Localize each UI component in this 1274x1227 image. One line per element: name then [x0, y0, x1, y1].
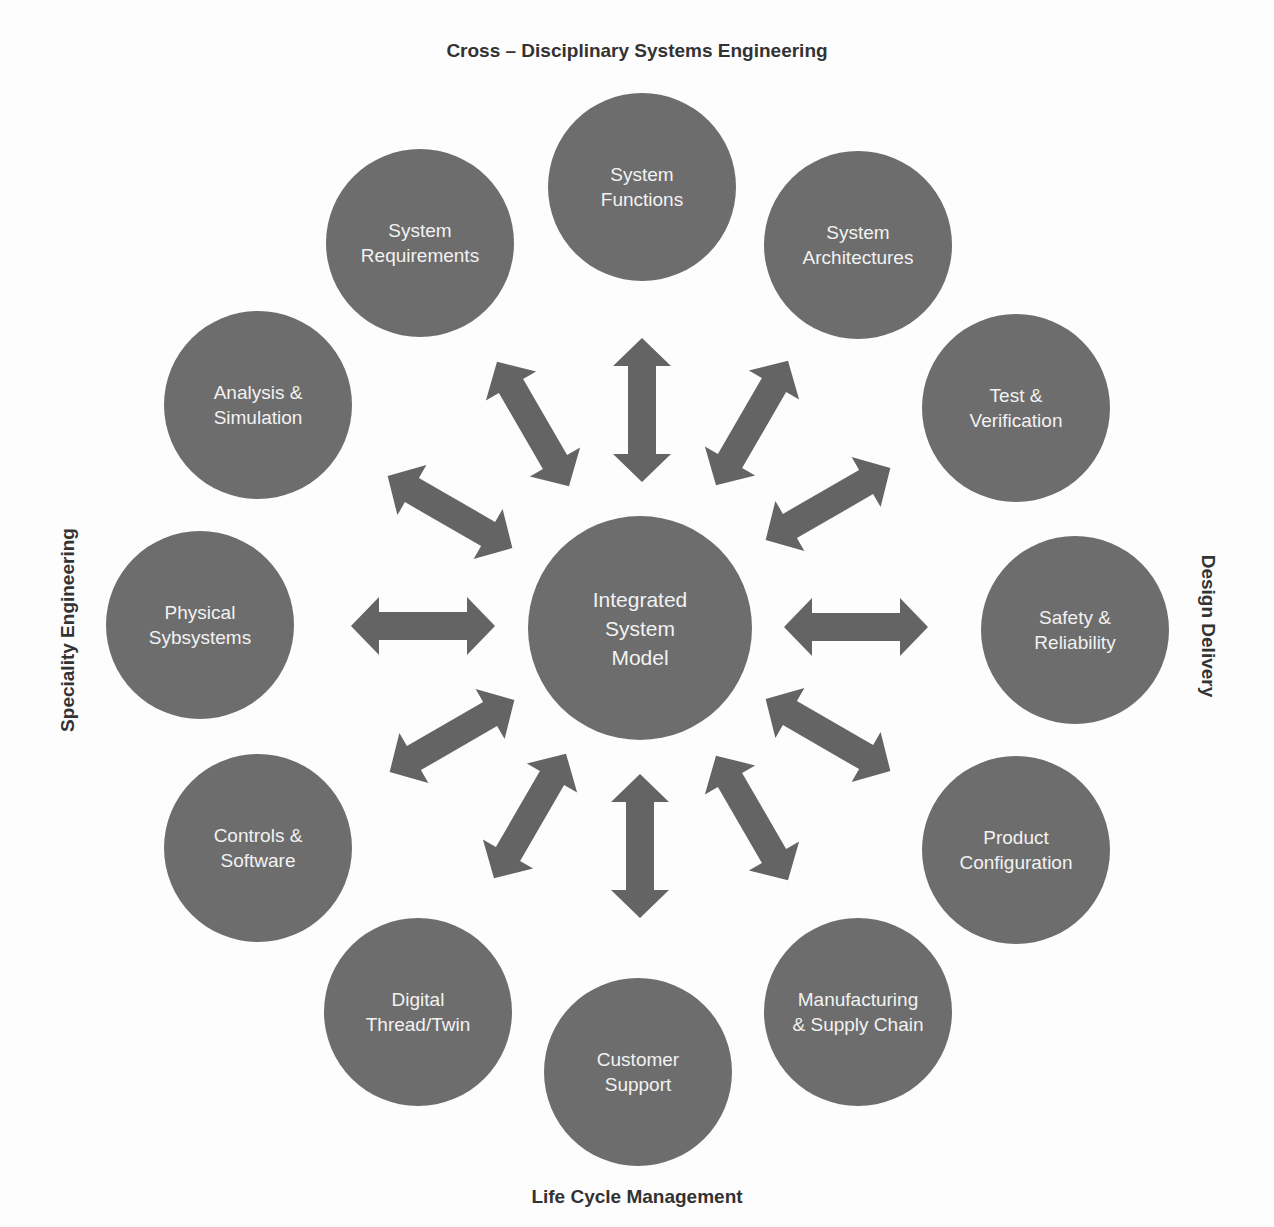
axis-label-left: Speciality Engineering [57, 528, 79, 732]
node-label-line: System [593, 614, 688, 643]
node-label-line: Thread/Twin [366, 1012, 471, 1037]
arrow-safety-reliability [784, 598, 928, 656]
node-label-line: Sybsystems [149, 625, 251, 650]
node-manufacturing-supply-chain: Manufacturing & Supply Chain [764, 918, 952, 1106]
node-label-line: Software [214, 848, 303, 873]
node-controls-software: Controls & Software [164, 754, 352, 942]
arrow-customer-support [611, 774, 669, 918]
node-system-requirements: System Requirements [326, 149, 514, 337]
node-product-configuration: Product Configuration [922, 756, 1110, 944]
arrow-system-architectures [691, 346, 813, 500]
node-label-line: Physical [149, 600, 251, 625]
node-label-line: Support [597, 1072, 679, 1097]
node-system-functions: System Functions [548, 93, 736, 281]
node-label-line: System [361, 218, 479, 243]
node-label-line: System [803, 220, 914, 245]
node-label-line: Test & [970, 383, 1063, 408]
node-label-line: Verification [970, 408, 1063, 433]
node-label-line: Integrated [593, 585, 688, 614]
arrow-controls-software [375, 675, 529, 797]
node-label-line: Reliability [1034, 630, 1115, 655]
node-system-architectures: System Architectures [764, 151, 952, 339]
arrow-system-functions [613, 338, 671, 482]
axis-label-top: Cross – Disciplinary Systems Engineering [0, 40, 1274, 62]
node-label-line: Configuration [959, 850, 1072, 875]
arrow-physical-sybsystems [351, 597, 495, 655]
center-node-integrated-system-model: Integrated System Model [528, 516, 752, 740]
node-label-line: Functions [601, 187, 683, 212]
axis-label-bottom: Life Cycle Management [0, 1186, 1274, 1208]
node-label-line: Customer [597, 1047, 679, 1072]
arrow-analysis-simulation [373, 451, 527, 573]
node-label-line: Simulation [214, 405, 303, 430]
node-customer-support: Customer Support [544, 978, 732, 1166]
arrow-manufacturing-supply-chain [691, 741, 813, 895]
node-label-line: Digital [366, 987, 471, 1012]
node-label-line: Architectures [803, 245, 914, 270]
node-analysis-simulation: Analysis & Simulation [164, 311, 352, 499]
diagram-canvas: Cross – Disciplinary Systems Engineering… [0, 0, 1274, 1227]
node-label-line: Requirements [361, 243, 479, 268]
arrow-digital-thread-twin [469, 739, 591, 893]
node-label-line: Controls & [214, 823, 303, 848]
node-physical-sybsystems: Physical Sybsystems [106, 531, 294, 719]
arrow-system-requirements [472, 347, 594, 501]
node-label-line: Safety & [1034, 605, 1115, 630]
node-label-line: Manufacturing [793, 987, 924, 1012]
node-label-line: Model [593, 643, 688, 672]
node-label-line: System [601, 162, 683, 187]
arrow-test-verification [751, 443, 905, 565]
arrow-product-configuration [751, 674, 905, 796]
node-test-verification: Test & Verification [922, 314, 1110, 502]
node-label-line: Analysis & [214, 380, 303, 405]
axis-label-right: Design Delivery [1197, 555, 1219, 698]
node-label-line: & Supply Chain [793, 1012, 924, 1037]
node-label-line: Product [959, 825, 1072, 850]
node-safety-reliability: Safety & Reliability [981, 536, 1169, 724]
node-digital-thread-twin: Digital Thread/Twin [324, 918, 512, 1106]
